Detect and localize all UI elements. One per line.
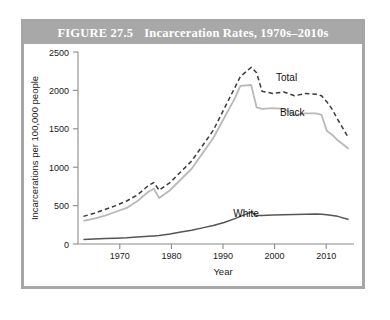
- x-tick-label: 1980: [161, 251, 181, 261]
- series-line-total: [83, 67, 348, 216]
- series-label-black: Black: [280, 107, 305, 118]
- x-axis-tick-labels: 1970 1980 1990 2000 2010: [110, 251, 336, 261]
- y-tick-label: 1500: [49, 124, 69, 134]
- y-axis-ticks: [73, 52, 78, 244]
- y-axis-title: Incarcerations per 100,000 people: [29, 76, 40, 220]
- figure-title: Incarceration Rates, 1970s–2010s: [144, 26, 328, 41]
- incarceration-rates-line-chart: 2500 2000 1500 1000 500 0 1970 1980 1990…: [24, 44, 362, 288]
- figure-title-bar: FIGURE 27.5 Incarceration Rates, 1970s–2…: [24, 22, 362, 44]
- chart-plot-area: 2500 2000 1500 1000 500 0 1970 1980 1990…: [24, 44, 362, 286]
- y-axis-tick-labels: 2500 2000 1500 1000 500 0: [49, 48, 69, 250]
- x-tick-label: 2010: [316, 251, 336, 261]
- y-tick-label: 1000: [49, 163, 69, 173]
- figure-container: FIGURE 27.5 Incarceration Rates, 1970s–2…: [21, 19, 365, 289]
- x-axis-title: Year: [213, 266, 232, 277]
- y-tick-label: 500: [54, 201, 69, 211]
- x-tick-label: 1970: [110, 251, 130, 261]
- figure-number: FIGURE 27.5: [57, 26, 133, 41]
- y-tick-label: 2500: [49, 48, 69, 58]
- y-tick-label: 0: [64, 240, 69, 250]
- series-label-total: Total: [276, 72, 297, 83]
- x-tick-label: 2000: [265, 251, 285, 261]
- x-axis-ticks: [120, 244, 326, 249]
- series-line-white: [83, 212, 348, 239]
- y-tick-label: 2000: [49, 86, 69, 96]
- x-tick-label: 1990: [213, 251, 233, 261]
- series-line-black: [83, 85, 348, 221]
- series-label-white: White: [233, 208, 259, 219]
